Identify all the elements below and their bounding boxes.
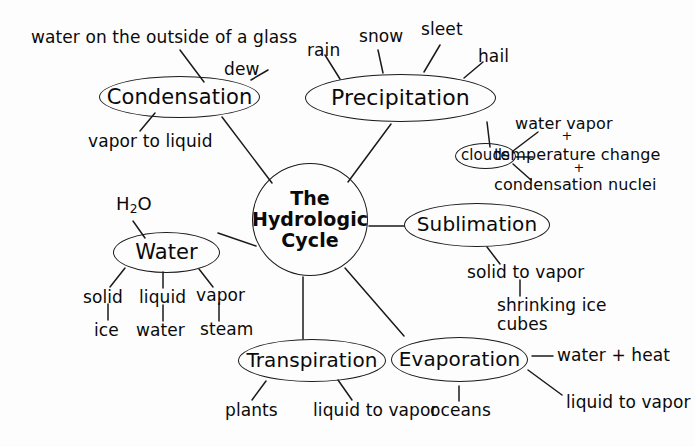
label-dew: dew [224,60,259,79]
node-transpiration[interactable]: Transpiration [238,339,386,382]
label-vapor: vapor [196,286,245,305]
edge-center-condensation [222,117,272,183]
label-water-state: water [136,321,185,340]
label-sleet: sleet [421,20,463,39]
label-liquid-to-vapor-transpiration: liquid to vapor [313,401,438,420]
edge-center-water [218,233,256,246]
node-condensation-label: Condensation [107,86,253,108]
label-condensation-nuclei: condensation nuclei [494,176,656,194]
node-transpiration-label: Transpiration [246,350,377,371]
node-precipitation-label: Precipitation [331,86,470,109]
label-shrinking-ice-cubes: shrinking ice cubes [497,296,606,334]
label-snow: snow [359,27,403,46]
label-oceans: oceans [430,401,491,420]
label-shrinking-ice-line2: cubes [497,315,606,334]
label-hail: hail [478,47,509,66]
edge-precipitation-sleet [424,45,440,72]
label-ice: ice [94,321,119,340]
edge-center-precipitation [348,124,391,182]
node-water-label: Water [135,241,198,263]
label-liquid: liquid [139,288,186,307]
label-plants: plants [225,401,278,420]
node-evaporation-label: Evaporation [399,349,521,370]
edge-water-solid [110,268,125,287]
node-sublimation[interactable]: Sublimation [404,203,550,247]
label-rain: rain [307,41,340,60]
edge-center-evaporation [345,268,404,336]
label-water-on-glass: water on the outside of a glass [31,28,297,47]
label-h2o: H2O [116,194,152,217]
label-water-plus-heat: water + heat [557,346,670,365]
label-solid-to-vapor: solid to vapor [467,263,584,282]
label-liquid-to-vapor-evaporation: liquid to vapor [566,393,691,412]
label-h2o-o: O [138,193,152,214]
node-precipitation[interactable]: Precipitation [305,74,496,122]
node-water[interactable]: Water [113,232,220,273]
concept-map-canvas: Condensation Precipitation clouds The Hy… [0,0,695,447]
edge-transpiration-plants [252,381,266,400]
label-h2o-subscript: 2 [130,202,138,216]
node-sublimation-label: Sublimation [417,214,537,235]
center-line-2: Hydrologic [252,209,368,230]
node-evaporation[interactable]: Evaporation [391,337,528,382]
label-solid: solid [83,288,123,307]
label-plus-one: + [515,130,619,142]
label-plus-two: + [494,162,664,174]
center-line-3: Cycle [252,230,368,251]
label-h2o-h: H [116,193,130,214]
label-shrinking-ice-line1: shrinking ice [497,296,606,315]
node-condensation[interactable]: Condensation [99,76,260,118]
edge-evaporation-liquidtovapor [528,370,562,395]
label-vapor-to-liquid: vapor to liquid [88,132,213,151]
node-center-hydrologic-cycle[interactable]: The Hydrologic Cycle [252,163,368,276]
edge-precipitation-snow [378,50,383,73]
edge-transpiration-liquidtovapor [338,380,352,400]
center-line-1: The [252,188,368,209]
label-steam: steam [200,320,253,339]
